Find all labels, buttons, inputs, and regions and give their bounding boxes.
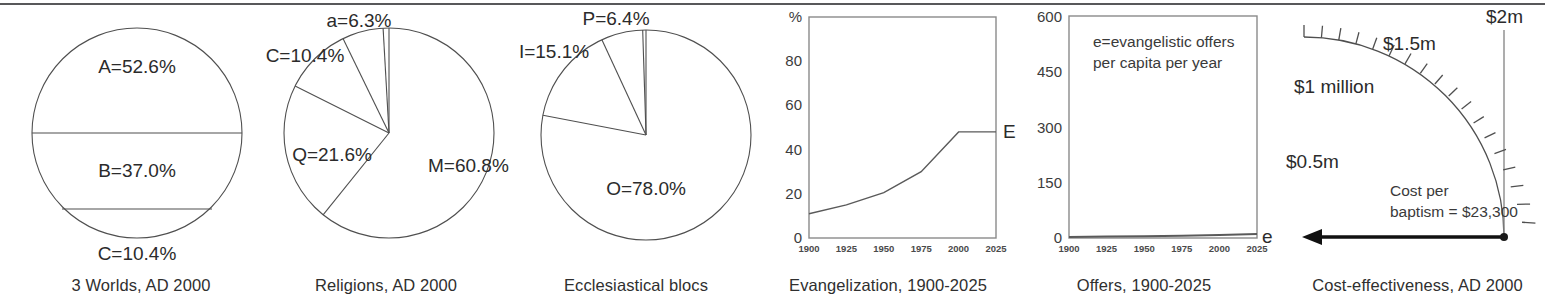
xtick-2000: 2000 xyxy=(1209,243,1230,254)
label-p: P=6.4% xyxy=(582,8,649,29)
label-i: I=15.1% xyxy=(519,41,589,62)
label-b: B=37.0% xyxy=(98,160,176,181)
xtick-1900: 1900 xyxy=(798,243,819,254)
ytick-300: 300 xyxy=(1037,119,1062,136)
ytick-40: 40 xyxy=(785,141,802,158)
xtick-2025: 2025 xyxy=(985,243,1007,254)
label-q: Q=21.6% xyxy=(292,144,372,165)
figure-sheet: A=52.6% B=37.0% C=10.4% 3 Worlds, AD 200… xyxy=(0,0,1545,301)
xtick-1950: 1950 xyxy=(873,243,894,254)
label-a: a=6.3% xyxy=(327,10,392,31)
panel-cost-effectiveness: $0.5m $1 million $1.5m $2m Cost per bapt… xyxy=(1278,0,1545,301)
panel-ecclesiastical-blocs: O=78.0% I=15.1% P=6.4% Ecclesiastical bl… xyxy=(500,0,792,301)
cost-effectiveness-gauge: $0.5m $1 million $1.5m $2m Cost per bapt… xyxy=(1278,0,1545,270)
note-line-1: e=evangelistic offers xyxy=(1093,33,1235,50)
xtick-1925: 1925 xyxy=(836,243,858,254)
scale-label-half: $0.5m xyxy=(1286,151,1339,172)
gauge-pivot xyxy=(1500,233,1508,241)
panel-evangelization: % 80 60 40 20 0 1900 1925 1950 1975 2000… xyxy=(760,0,1028,301)
value-note-line-1: Cost per xyxy=(1390,182,1449,199)
label-o: O=78.0% xyxy=(606,178,686,199)
series-label-e: e xyxy=(1262,226,1273,247)
scale-label-two: $2m xyxy=(1486,6,1523,27)
xtick-1975: 1975 xyxy=(1171,243,1193,254)
xtick-1950: 1950 xyxy=(1134,243,1155,254)
xtick-1925: 1925 xyxy=(1096,243,1118,254)
caption-cost-effectiveness: Cost-effectiveness, AD 2000 xyxy=(1284,276,1545,295)
ytick-20: 20 xyxy=(785,185,802,202)
label-m: M=60.8% xyxy=(428,155,509,176)
series-label-e: E xyxy=(1003,121,1016,142)
xtick-1900: 1900 xyxy=(1058,243,1079,254)
label-a: A=52.6% xyxy=(98,56,176,77)
plot-frame xyxy=(809,17,996,238)
note-line-2: per capita per year xyxy=(1093,54,1222,71)
offers-line-chart: 600 450 300 150 0 1900 1925 1950 1975 20… xyxy=(1018,0,1286,270)
yaxis-unit: % xyxy=(789,8,802,25)
caption-offers: Offers, 1900-2025 xyxy=(1010,276,1278,295)
ecclesiastical-pie-chart: O=78.0% I=15.1% P=6.4% xyxy=(500,0,792,270)
ytick-150: 150 xyxy=(1037,174,1062,191)
label-c: C=10.4% xyxy=(98,243,177,264)
scale-label-one: $1 million xyxy=(1294,76,1374,97)
series-line-e xyxy=(1069,234,1257,237)
ytick-600: 600 xyxy=(1037,8,1062,25)
caption-evangelization: Evangelization, 1900-2025 xyxy=(754,276,1022,295)
scale-label-one-half: $1.5m xyxy=(1383,33,1436,54)
gauge-needle-head xyxy=(1302,229,1322,245)
evangelization-line-chart: % 80 60 40 20 0 1900 1925 1950 1975 2000… xyxy=(760,0,1028,270)
caption-ecclesiastical-blocs: Ecclesiastical blocs xyxy=(490,276,782,295)
panel-offers: 600 450 300 150 0 1900 1925 1950 1975 20… xyxy=(1018,0,1286,301)
value-note-line-2: baptism = $23,300 xyxy=(1390,203,1518,220)
ytick-60: 60 xyxy=(785,96,802,113)
xtick-1975: 1975 xyxy=(911,243,933,254)
xtick-2000: 2000 xyxy=(948,243,969,254)
label-c: C=10.4% xyxy=(266,45,345,66)
series-line-e xyxy=(809,132,996,214)
ytick-80: 80 xyxy=(785,52,802,69)
ytick-450: 450 xyxy=(1037,63,1062,80)
